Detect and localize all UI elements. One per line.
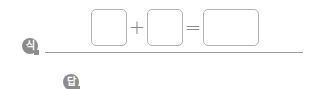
answer-badge: 답: [63, 74, 79, 89]
result-input-box[interactable]: [203, 9, 259, 46]
plus-sign: +: [127, 13, 147, 41]
equation-underline: [45, 52, 303, 53]
equation-badge-label: 식: [26, 41, 35, 51]
operand-2-input-box[interactable]: [147, 9, 183, 46]
equation-badge: 식: [22, 38, 38, 54]
answer-badge-label: 답: [67, 77, 76, 87]
equals-sign: =: [183, 13, 203, 41]
operand-1-input-box[interactable]: [91, 9, 127, 46]
